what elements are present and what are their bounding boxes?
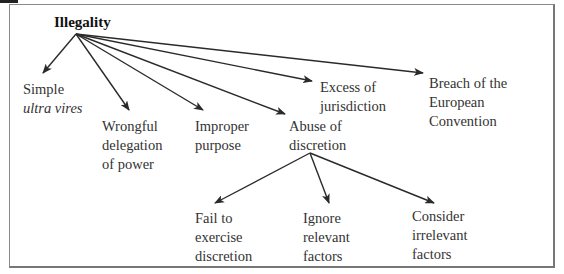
node-line: of power — [102, 155, 162, 174]
arrow-connectors — [0, 0, 564, 274]
node-simple-ultra-vires: Simple ultra vires — [23, 80, 82, 118]
node-line: Fail to — [195, 209, 252, 228]
node-wrongful-delegation: Wrongful delegation of power — [102, 117, 162, 174]
node-ignore-relevant: Ignore relevant factors — [303, 209, 350, 266]
node-fail-to-exercise: Fail to exercise discretion — [195, 209, 252, 266]
node-line: factors — [412, 245, 468, 264]
root-node-illegality: Illegality — [54, 13, 111, 32]
node-line: relevant — [303, 228, 350, 247]
arrow-to-wrongful — [76, 34, 129, 110]
arrow-to-fail — [215, 153, 310, 203]
node-line: jurisdiction — [320, 97, 386, 116]
node-improper-purpose: Improper purpose — [195, 117, 249, 155]
arrow-to-improper — [76, 34, 203, 110]
node-line: Ignore — [303, 209, 350, 228]
node-abuse-of-discretion: Abuse of discretion — [289, 117, 346, 155]
node-line: exercise — [195, 228, 252, 247]
arrow-to-consider — [310, 153, 434, 203]
node-line: Improper — [195, 117, 249, 136]
arrow-to-excess — [76, 34, 312, 81]
node-line: Wrongful — [102, 117, 162, 136]
arrow-to-ignore — [310, 153, 329, 203]
node-line: discretion — [289, 136, 346, 155]
node-breach-european-convention: Breach of the European Convention — [429, 74, 507, 131]
node-line: Excess of — [320, 78, 386, 97]
arrow-to-simple — [43, 34, 76, 73]
node-line: Simple — [23, 80, 82, 99]
node-line: Convention — [429, 112, 507, 131]
node-line: irrelevant — [412, 226, 468, 245]
node-line: Breach of the — [429, 74, 507, 93]
node-line: Abuse of — [289, 117, 346, 136]
node-excess-of-jurisdiction: Excess of jurisdiction — [320, 78, 386, 116]
node-consider-irrelevant: Consider irrelevant factors — [412, 207, 468, 264]
node-line: Consider — [412, 207, 468, 226]
node-line: European — [429, 93, 507, 112]
node-line: discretion — [195, 247, 252, 266]
node-line: delegation — [102, 136, 162, 155]
node-line-italic: ultra vires — [23, 99, 82, 118]
node-line: purpose — [195, 136, 249, 155]
node-line: factors — [303, 247, 350, 266]
